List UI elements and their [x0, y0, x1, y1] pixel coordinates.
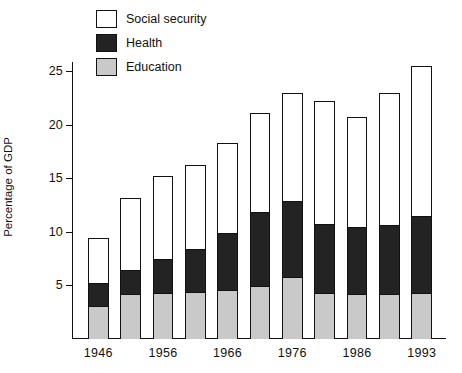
bar-segment-health [89, 283, 108, 306]
bar-slot [373, 50, 405, 339]
legend-item: Social security [96, 10, 207, 28]
bar-segment-education [283, 277, 302, 339]
legend-item-label: Social security [126, 12, 207, 26]
bar-segment-social-security [348, 118, 367, 227]
bar-slot [211, 50, 243, 339]
bar-segment-health [315, 224, 334, 293]
bar-segment-health [154, 259, 173, 293]
bar-segment-social-security [218, 144, 237, 232]
stacked-bar[interactable] [120, 198, 141, 339]
x-axis-label [373, 339, 405, 365]
bar-segment-health [380, 225, 399, 294]
bar-segment-social-security [186, 166, 205, 249]
bar-segment-health [412, 216, 431, 293]
bar-group [72, 50, 446, 339]
y-tick-label: 20 [49, 118, 63, 132]
x-axis-label: 1976 [276, 339, 308, 365]
stacked-bar[interactable] [314, 101, 335, 339]
y-tick-label: 10 [49, 225, 63, 239]
stacked-bar[interactable] [185, 165, 206, 339]
legend-item-label: Health [126, 36, 162, 50]
x-axis-label [244, 339, 276, 365]
bar-slot [82, 50, 114, 339]
x-axis-label: 1946 [82, 339, 114, 365]
stacked-bar[interactable] [379, 93, 400, 339]
bar-segment-social-security [121, 199, 140, 270]
bar-segment-education [89, 306, 108, 339]
y-axis-title: Percentage of GDP [2, 137, 14, 237]
bar-segment-education [348, 294, 367, 339]
bar-segment-social-security [154, 177, 173, 259]
bar-segment-education [251, 286, 270, 339]
bar-slot [309, 50, 341, 339]
bar-segment-health [251, 212, 270, 286]
x-axis-label [179, 339, 211, 365]
bar-segment-social-security [89, 239, 108, 282]
stacked-bar[interactable] [411, 66, 432, 339]
bar-segment-education [315, 293, 334, 339]
bar-segment-education [412, 293, 431, 339]
bar-segment-education [121, 294, 140, 339]
stacked-bar[interactable] [217, 143, 238, 339]
bar-segment-social-security [380, 94, 399, 225]
x-axis-labels: 194619561966197619861993 [72, 339, 446, 365]
x-axis-label: 1993 [406, 339, 438, 365]
x-axis-label: 1956 [147, 339, 179, 365]
bar-slot [114, 50, 146, 339]
stacked-bar-chart: Social securityHealthEducation Percentag… [0, 0, 462, 373]
x-axis-label [309, 339, 341, 365]
bar-segment-health [283, 201, 302, 277]
bar-slot [179, 50, 211, 339]
stacked-bar[interactable] [153, 176, 174, 339]
legend-swatch-icon [96, 10, 117, 28]
bar-segment-social-security [251, 114, 270, 212]
bar-segment-health [348, 227, 367, 294]
bar-segment-education [154, 293, 173, 339]
y-tick-label: 15 [49, 171, 63, 185]
x-axis-label: 1966 [211, 339, 243, 365]
bar-slot [244, 50, 276, 339]
bar-segment-education [380, 294, 399, 339]
bar-slot [276, 50, 308, 339]
stacked-bar[interactable] [250, 113, 271, 339]
x-axis-label [114, 339, 146, 365]
bar-slot [406, 50, 438, 339]
bar-segment-health [186, 249, 205, 293]
y-tick-label: 5 [56, 278, 63, 292]
bar-segment-social-security [283, 94, 302, 202]
bar-slot [341, 50, 373, 339]
bar-segment-education [218, 290, 237, 339]
bar-segment-social-security [412, 67, 431, 216]
stacked-bar[interactable] [88, 238, 109, 339]
x-axis-label: 1986 [341, 339, 373, 365]
bar-segment-health [218, 233, 237, 291]
plot-area: 510152025 [72, 50, 446, 339]
y-tick-label: 25 [49, 64, 63, 78]
stacked-bar[interactable] [347, 117, 368, 339]
bar-slot [147, 50, 179, 339]
bar-segment-education [186, 292, 205, 339]
bar-segment-health [121, 270, 140, 294]
stacked-bar[interactable] [282, 93, 303, 339]
bar-segment-social-security [315, 102, 334, 224]
